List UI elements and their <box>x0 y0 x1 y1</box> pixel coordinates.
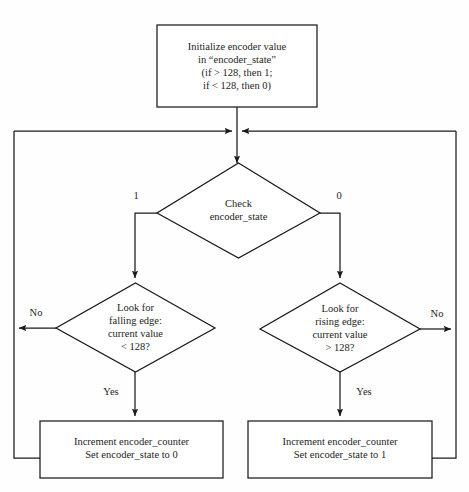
node-falling-line-1: Look for <box>117 302 155 313</box>
flowchart-page: Initialize encoder value in “encoder_sta… <box>0 0 469 492</box>
node-falling-line-4: < 128? <box>121 341 150 352</box>
connector-check-to-falling <box>135 213 157 278</box>
connector-check-to-rising <box>320 213 340 278</box>
node-falling-line-3: current value <box>108 328 163 339</box>
node-increment-right-line-2: Set encoder_state to 1 <box>294 449 386 460</box>
edge-label-rising-no: No <box>431 308 444 319</box>
node-falling-line-2: falling edge: <box>109 315 162 326</box>
flowchart-canvas: Initialize encoder value in “encoder_sta… <box>0 0 469 492</box>
node-initialize-line-1: Initialize encoder value <box>188 41 287 52</box>
node-look-for-rising-edge <box>260 283 420 372</box>
edge-label-check-one: 1 <box>133 190 138 201</box>
node-initialize-line-4: if < 128, then 0) <box>203 80 272 92</box>
node-initialize-line-3: (if > 128, then 1; <box>202 67 273 79</box>
edge-label-falling-no: No <box>30 307 43 318</box>
edge-label-falling-yes: Yes <box>103 386 118 397</box>
connector-left-outer-rail <box>14 131 40 458</box>
node-rising-line-1: Look for <box>321 303 359 314</box>
node-initialize-line-2: in “encoder_state” <box>198 54 276 65</box>
edge-label-check-zero: 0 <box>336 190 341 201</box>
node-rising-line-4: > 128? <box>326 342 355 353</box>
node-check-line-2: encoder_state <box>210 211 268 222</box>
node-increment-right-line-1: Increment encoder_counter <box>282 436 398 447</box>
edge-label-rising-yes: Yes <box>356 386 371 397</box>
node-increment-left-line-1: Increment encoder_counter <box>74 436 190 447</box>
connector-right-outer-rail <box>432 131 456 458</box>
node-rising-line-2: rising edge: <box>315 316 364 327</box>
node-check-line-1: Check <box>225 198 253 209</box>
node-rising-line-3: current value <box>312 329 367 340</box>
node-increment-left-line-2: Set encoder_state to 0 <box>85 449 177 460</box>
